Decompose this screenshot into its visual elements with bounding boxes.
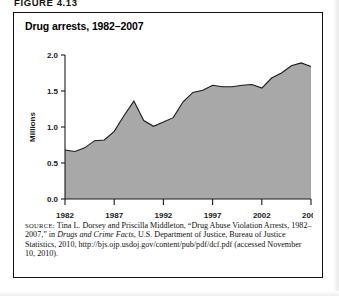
x-tick-label: 1997: [204, 211, 222, 220]
area-chart: 0.00.51.01.52.0 198219871992199720022007…: [25, 49, 313, 225]
source-italic-title: Drugs and Crime Facts: [57, 230, 134, 239]
scan-edge-bottom: [0, 291, 339, 296]
source-note: SOURCE: Tina L. Dorsey and Priscilla Mid…: [25, 221, 313, 259]
x-axis-tick-labels: 198219871992199720022007: [56, 211, 313, 220]
x-tick-label: 1982: [56, 211, 74, 220]
x-tick-label: 2002: [253, 211, 271, 220]
y-axis-tick-marks: [61, 55, 65, 199]
chart-plot-area: 0.00.51.01.52.0 198219871992199720022007…: [25, 49, 313, 225]
chart-title: Drug arrests, 1982–2007: [25, 20, 144, 32]
y-tick-label: 2.0: [47, 51, 59, 60]
figure-box: Drug arrests, 1982–2007 0.00.51.01.52.0 …: [13, 12, 323, 278]
x-tick-label: 1992: [155, 211, 173, 220]
y-axis-title: Millions: [28, 112, 37, 142]
area-series-fill: [65, 63, 311, 199]
y-tick-label: 1.0: [47, 123, 59, 132]
y-axis-tick-labels: 0.00.51.01.52.0: [47, 51, 59, 204]
x-axis-tick-marks: [65, 199, 311, 205]
y-tick-label: 0.0: [47, 195, 59, 204]
y-tick-label: 1.5: [47, 87, 59, 96]
scan-edge-right: [333, 0, 339, 296]
figure-label: FIGURE 4.13: [14, 0, 78, 9]
source-label: SOURCE:: [25, 222, 55, 229]
x-tick-label: 2007: [302, 211, 313, 220]
y-tick-label: 0.5: [47, 159, 59, 168]
x-tick-label: 1987: [105, 211, 123, 220]
